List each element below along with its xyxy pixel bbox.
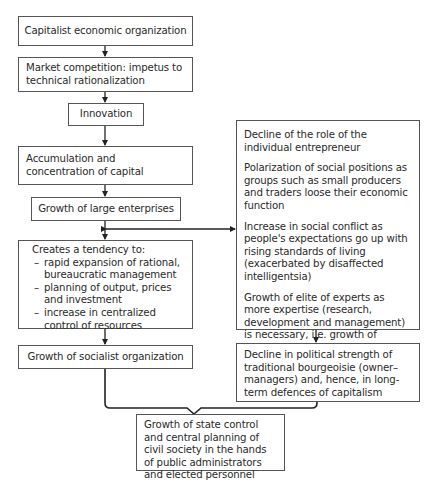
tendency-item: increase in centralized control of resou…: [32, 307, 186, 332]
box-state-control-outcome: Growth of state control and central plan…: [136, 414, 285, 471]
tendency-item: rapid expansion of rational, bureaucrati…: [32, 257, 186, 282]
box-growth-socialist-organization: Growth of socialist organization: [18, 345, 193, 369]
box-capitalist-economic-organization: Capitalist economic organization: [18, 16, 193, 46]
box-text: Market competition: impetus to technical…: [26, 62, 182, 86]
box-text: Innovation: [80, 108, 132, 121]
box-text: Growth of large enterprises: [38, 203, 174, 216]
box-text: Decline in political strength of traditi…: [244, 349, 399, 398]
tendency-item: planning of output, prices and investmen…: [32, 282, 186, 307]
box-market-competition: Market competition: impetus to technical…: [18, 57, 193, 92]
box-consequences: Decline of the role of the individual en…: [236, 120, 420, 330]
box-text: Accumulation and concentration of capita…: [26, 153, 143, 177]
consequence-paragraph: Increase in social conflict as people's …: [244, 221, 413, 284]
box-innovation: Innovation: [68, 103, 144, 126]
box-growth-large-enterprises: Growth of large enterprises: [31, 197, 181, 221]
box-text: Capitalist economic organization: [24, 25, 186, 38]
box-text: Growth of socialist organization: [27, 351, 183, 364]
box-creates-tendency: Creates a tendency to: rapid expansion o…: [18, 240, 193, 329]
consequence-paragraph: Polarization of social positions as grou…: [244, 162, 413, 212]
consequence-paragraph: Decline of the role of the individual en…: [244, 129, 413, 154]
box-decline-bourgeoisie: Decline in political strength of traditi…: [236, 343, 420, 402]
tendency-list: rapid expansion of rational, bureaucrati…: [32, 257, 186, 333]
tendency-heading: Creates a tendency to:: [32, 244, 186, 257]
box-accumulation-concentration: Accumulation and concentration of capita…: [18, 146, 193, 185]
box-text: Growth of state control and central plan…: [144, 419, 266, 480]
